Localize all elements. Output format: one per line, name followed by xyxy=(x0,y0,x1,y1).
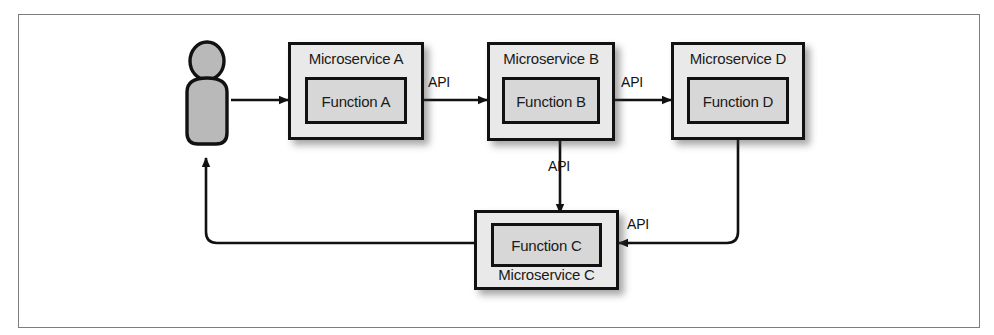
service-label-c: Microservice C xyxy=(477,266,616,283)
function-label-b: Function B xyxy=(505,92,597,109)
api-label-b-to-d: API xyxy=(621,74,643,90)
function-label-d: Function D xyxy=(690,92,786,109)
service-label-b: Microservice B xyxy=(490,50,612,67)
user-actor xyxy=(174,38,244,158)
function-box-d[interactable]: Function D xyxy=(687,77,789,124)
function-label-c: Function C xyxy=(494,237,599,254)
api-label-b-to-c: API xyxy=(548,158,570,174)
service-box-microservice-b[interactable]: Microservice B Function B xyxy=(487,42,615,141)
function-box-a[interactable]: Function A xyxy=(305,77,407,124)
service-box-microservice-c[interactable]: Function C Microservice C xyxy=(474,210,619,290)
api-label-d-to-c: API xyxy=(627,216,649,232)
diagram-canvas: Microservice A Function A Microservice B… xyxy=(0,0,994,335)
service-box-microservice-a[interactable]: Microservice A Function A xyxy=(288,42,424,140)
function-box-b[interactable]: Function B xyxy=(502,77,600,124)
service-label-d: Microservice D xyxy=(674,50,802,67)
service-box-microservice-d[interactable]: Microservice D Function D xyxy=(671,42,805,140)
function-label-a: Function A xyxy=(308,92,404,109)
actor-body-icon xyxy=(187,78,227,144)
actor-head-icon xyxy=(190,42,224,80)
connector-c-to-user xyxy=(206,158,474,243)
api-label-a-to-b: API xyxy=(428,74,450,90)
service-label-a: Microservice A xyxy=(291,50,421,67)
function-box-c[interactable]: Function C xyxy=(491,223,602,267)
